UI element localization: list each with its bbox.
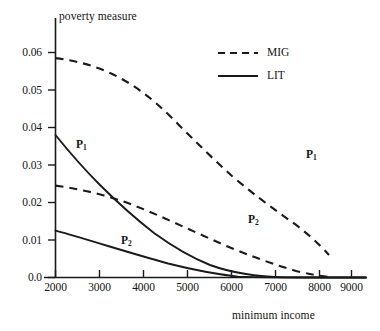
x-tick-label-3000: 3000 [78,281,122,293]
y-tick-label-2: 0.02 [2,196,42,208]
y-axis-title: poverty measure [59,10,137,22]
annotation-mig-p1-sub: 1 [313,153,317,162]
x-tick-label-5000: 5000 [166,281,210,293]
annotation-mig-p2: P2 [248,213,259,225]
y-tick-label-1: 0.01 [2,234,42,246]
x-tick-label-4000: 4000 [122,281,166,293]
x-tick-label-7000: 7000 [254,281,298,293]
series-mig-p1 [56,58,330,255]
x-tick-label-9000: 9000 [330,281,374,293]
annotation-mig-p1-base: P [306,148,313,160]
annotation-lit-p2: P2 [121,234,132,246]
annotation-mig-p2-sub: 2 [255,218,259,227]
x-axis-title: minimum income [232,309,315,321]
legend-label-lit: LIT [267,69,285,81]
annotation-lit-p1-sub: 1 [83,143,87,152]
y-tick-label-3: 0.03 [2,159,42,171]
annotation-mig-p2-base: P [248,213,255,225]
y-tick-label-4: 0.04 [2,121,42,133]
annotation-lit-p1: P1 [76,138,87,150]
series-mig-p2 [56,186,334,278]
annotation-lit-p2-base: P [121,234,128,246]
y-tick-label-6: 0.06 [2,46,42,58]
annotation-mig-p1: P1 [306,148,317,160]
poverty-measure-chart: poverty measure minimum income 0.0 0.01 … [0,0,380,331]
y-tick-label-5: 0.05 [2,84,42,96]
x-tick-label-6000: 6000 [210,281,254,293]
legend-label-mig: MIG [267,46,289,58]
y-axis-ticks [48,53,56,278]
annotation-lit-p1-base: P [76,138,83,150]
x-tick-label-2000: 2000 [34,281,78,293]
annotation-lit-p2-sub: 2 [128,239,132,248]
